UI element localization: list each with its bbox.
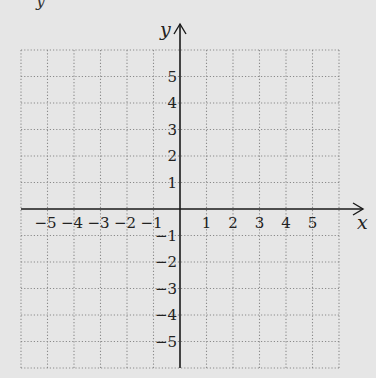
x-axis-label: x [357, 211, 368, 233]
axes [21, 24, 363, 368]
coordinate-plane: −5−4−3−2−112345 54321−1−2−3−4−5 x y [0, 0, 376, 378]
x-tick-label: 1 [202, 214, 212, 232]
y-tick-label: 5 [167, 68, 177, 86]
y-axis-label: y [159, 18, 171, 40]
x-tick-label: −3 [87, 214, 109, 232]
y-tick-label: 4 [167, 94, 177, 112]
y-tick-label: −3 [155, 280, 177, 298]
coordinate-plane-figure: y −5−4−3−2−112345 54321−1−2−3−4−5 x y [0, 0, 376, 378]
y-tick-label: −1 [155, 227, 177, 245]
y-tick-label: 2 [167, 147, 177, 165]
y-tick-label: −5 [155, 333, 177, 351]
y-tick-label: 1 [167, 174, 177, 192]
y-tick-label: 3 [167, 121, 177, 139]
x-tick-label: −5 [34, 214, 56, 232]
x-tick-label: −2 [114, 214, 136, 232]
x-tick-label: 3 [255, 214, 265, 232]
cropped-top-label: y [36, 0, 45, 10]
y-tick-label: −2 [155, 253, 177, 271]
x-tick-label: 2 [228, 214, 238, 232]
y-tick-label: −4 [155, 306, 177, 324]
x-tick-label: −4 [61, 214, 83, 232]
x-tick-label: 4 [281, 214, 291, 232]
x-tick-label: 5 [308, 214, 318, 232]
